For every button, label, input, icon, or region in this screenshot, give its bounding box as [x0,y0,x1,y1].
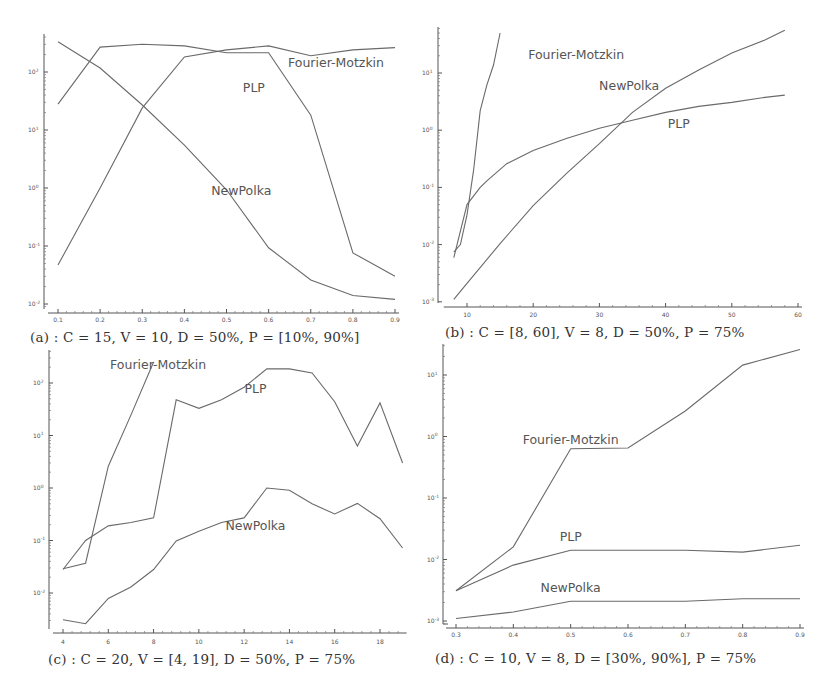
series-label: NewPolka [211,183,271,198]
chart-c: 10-210-11001011024681012141618Fourier-Mo… [33,350,407,645]
x-tick-label: 50 [728,311,736,318]
y-tick-label: 100 [422,126,433,134]
x-tick-label: 12 [240,638,248,645]
x-tick-label: 8 [152,638,156,645]
x-tick-label: 4 [61,638,65,645]
y-tick-label: 100 [28,184,39,192]
chart-caption-b: (b) : C = [8, 60], V = 8, D = 50%, P = 7… [445,324,745,340]
series-label: NewPolka [541,580,601,595]
y-tick-label: 101 [28,126,39,134]
x-tick-label: 10 [463,311,471,318]
y-tick-label: 10-2 [427,555,439,563]
series-line-newpolka [58,42,395,300]
series-line-fourier-motzkin [58,46,395,265]
y-tick-label: 10-3 [427,617,439,625]
x-tick-label: 0.5 [222,316,232,323]
y-tick-label: 100 [427,432,438,440]
series-label: NewPolka [599,78,659,93]
series-line-newpolka [456,599,800,619]
x-tick-label: 0.1 [53,316,63,323]
series-label: Fourier-Motzkin [523,432,619,447]
series-line-fourier-motzkin [456,350,800,591]
y-tick-label: 10-2 [33,589,45,597]
series-line-plp [456,545,800,591]
y-tick-label: 102 [33,379,44,387]
x-tick-label: 16 [331,638,339,645]
x-tick-label: 0.8 [348,316,358,323]
x-tick-label: 14 [286,638,294,645]
y-tick-label: 102 [28,68,39,76]
x-tick-label: 30 [596,311,604,318]
chart-b: 10-310-210-1100101102030405060Fourier-Mo… [422,27,802,318]
y-tick-label: 100 [33,484,44,492]
x-tick-label: 0.3 [137,316,147,323]
x-tick-label: 0.5 [566,631,576,638]
x-tick-label: 0.4 [509,631,519,638]
y-tick-label: 101 [427,371,438,379]
x-tick-label: 6 [106,638,110,645]
y-tick-label: 10-1 [33,536,45,544]
chart-d: 10-310-210-11001010.30.40.50.60.70.80.9F… [427,344,805,638]
series-line-plp [63,369,403,570]
series-label: Fourier-Motzkin [110,357,206,372]
series-label: NewPolka [225,518,285,533]
x-tick-label: 10 [195,638,203,645]
series-line-plp [58,44,395,276]
chart-caption-d: (d) : C = 10, V = 8, D = [30%, 90%], P =… [435,650,756,666]
series-line-plp [454,95,785,258]
x-tick-label: 40 [662,311,670,318]
series-line-newpolka [454,30,785,299]
y-tick-label: 101 [33,431,44,439]
x-tick-label: 0.3 [451,631,461,638]
x-tick-label: 20 [529,311,537,318]
y-tick-label: 10-1 [28,242,40,250]
x-tick-label: 0.2 [95,316,105,323]
y-tick-label: 10-3 [422,297,434,305]
x-tick-label: 0.6 [623,631,633,638]
x-tick-label: 0.7 [306,316,316,323]
series-line-fourier-motzkin [63,362,154,569]
series-label: PLP [668,116,691,131]
series-label: Fourier-Motzkin [288,55,384,70]
y-tick-label: 10-1 [422,183,434,191]
x-tick-label: 0.9 [795,631,805,638]
chart-a: 10-210-11001011020.10.20.30.40.50.60.70.… [28,34,400,323]
x-tick-label: 0.7 [681,631,691,638]
series-line-newpolka [63,488,403,624]
y-tick-label: 10-2 [28,300,40,308]
x-tick-label: 0.4 [180,316,190,323]
chart-caption-a: (a) : C = 15, V = 10, D = 50%, P = [10%,… [30,329,360,345]
chart-caption-c: (c) : C = 20, V = [4, 19], D = 50%, P = … [48,651,355,667]
x-tick-label: 0.6 [264,316,274,323]
y-tick-label: 10-2 [422,240,434,248]
series-label: PLP [560,529,583,544]
series-label: PLP [244,381,267,396]
series-line-fourier-motzkin [454,33,500,252]
y-tick-label: 10-1 [427,494,439,502]
series-label: Fourier-Motzkin [528,47,624,62]
x-tick-label: 60 [794,311,802,318]
x-tick-label: 0.8 [738,631,748,638]
x-tick-label: 0.9 [390,316,400,323]
y-tick-label: 101 [422,69,433,77]
x-tick-label: 18 [376,638,384,645]
figure-canvas: 10-210-11001011020.10.20.30.40.50.60.70.… [0,0,831,698]
series-label: PLP [243,80,266,95]
